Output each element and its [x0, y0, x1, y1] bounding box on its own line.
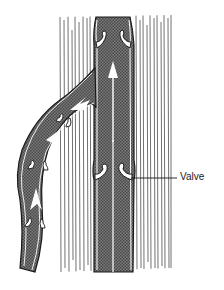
main-vein [93, 17, 135, 272]
valve-label: Valve [180, 172, 204, 182]
vein-valve-diagram [0, 0, 224, 290]
